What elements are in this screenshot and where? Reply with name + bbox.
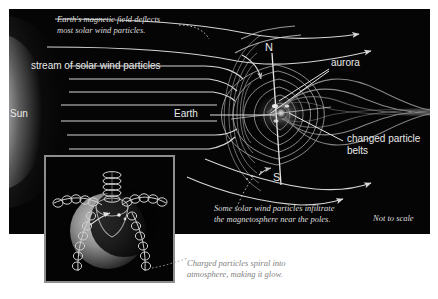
infiltrate-note-label: Some solar wind particles infiltrate the… (214, 203, 384, 225)
south-pole-label: S (273, 171, 280, 183)
north-pole-label: N (265, 41, 273, 53)
aurora-label: aurora (331, 57, 360, 68)
sun-label: Sun (10, 108, 28, 119)
not-to-scale-label: Not to scale (373, 213, 414, 224)
deflect-note-label: Earth's magnetic field deflects most sol… (57, 14, 189, 36)
stream-label: stream of solar wind particles (31, 60, 161, 71)
earth-label: Earth (174, 108, 198, 119)
particle-belts-label: changed particle belts (347, 133, 430, 157)
inset-caption: Charged particles spiral into atmosphere… (187, 258, 377, 280)
figure-root: Earth's magnetic field deflects most sol… (0, 0, 438, 299)
